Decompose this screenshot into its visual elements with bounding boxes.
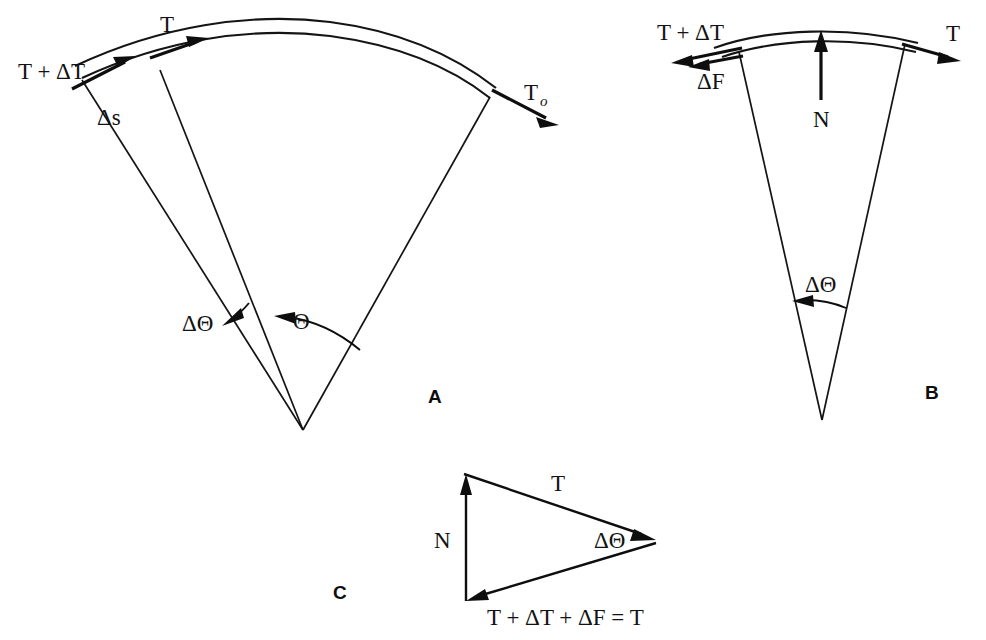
label-normal-b: N (813, 107, 830, 132)
label-wrap-angle-a: Θ (293, 309, 310, 334)
label-delta-angle-b: ΔΘ (805, 272, 836, 297)
panel-b-belt (714, 32, 918, 57)
panel-b: T + ΔT ΔF N T ΔΘ B (657, 20, 961, 420)
label-arc-length-a: Δs (97, 105, 121, 130)
panel-a-tension-element-vector (150, 36, 209, 58)
tension-left-arrow-head (671, 55, 694, 67)
panel-a-radii (82, 70, 490, 430)
panel-letter-a: A (428, 386, 442, 407)
label-tension-right-b: T (946, 21, 960, 46)
label-tension-element-a: T (160, 12, 174, 37)
resultant-arrow-head-c (466, 589, 489, 601)
panel-b-radii (739, 44, 905, 420)
tension-element-arrow-head (186, 36, 209, 47)
label-friction-b: ΔF (697, 69, 725, 94)
belt-friction-diagram: T + ΔT T T o Δs ΔΘ Θ A (0, 0, 986, 640)
tension-out-arrow-head (536, 117, 559, 128)
figure-canvas: T + ΔT T T o Δs ΔΘ Θ A (0, 0, 986, 640)
panel-a-belt (75, 19, 496, 98)
label-tension-in-a: T + ΔT (18, 59, 85, 84)
label-tension-out-subscript-a: o (540, 93, 548, 109)
label-delta-angle-a: ΔΘ (182, 311, 213, 336)
label-tension-out-a: T (524, 80, 538, 105)
panel-letter-c: C (333, 582, 347, 603)
label-delta-angle-c: ΔΘ (594, 528, 625, 553)
wedge-left-side (739, 52, 822, 420)
panel-letter-b: B (925, 382, 939, 403)
label-normal-c: N (434, 528, 451, 553)
radius-right (303, 97, 490, 430)
delta-angle-arc-head (222, 308, 244, 326)
tension-arrow-head-c (630, 529, 656, 541)
label-tension-left-b: T + ΔT (657, 20, 724, 45)
panel-a: T + ΔT T T o Δs ΔΘ Θ A (18, 12, 559, 430)
panel-c-resultant-vector (466, 543, 656, 601)
tension-right-arrow-head (937, 52, 961, 64)
belt-outer-arc (75, 19, 496, 88)
resultant-arrow-shaft-c (482, 543, 656, 595)
panel-c-normal-vector (460, 474, 472, 601)
label-equation-c: T + ΔT + ΔF = T (487, 605, 644, 630)
wedge-right-side (822, 44, 905, 420)
belt-inner-arc (82, 33, 490, 98)
radius-middle (160, 70, 303, 430)
label-tension-out-a-group: T o (524, 80, 548, 109)
radius-left (82, 80, 303, 430)
panel-a-wrap-angle-arc (274, 312, 360, 350)
panel-b-tension-right-vector (902, 44, 961, 64)
label-tension-c: T (551, 471, 565, 496)
panel-c: N T ΔΘ T + ΔT + ΔF = T C (333, 471, 656, 630)
